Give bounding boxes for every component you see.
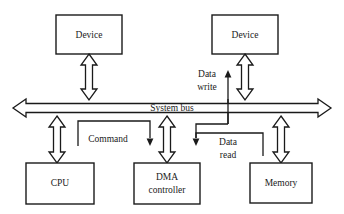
signal-data-write: Data write xyxy=(197,69,231,124)
system-bus-label: System bus xyxy=(150,103,194,113)
data-write-label-line1: Data xyxy=(198,69,217,79)
node-dma-controller: DMA controller xyxy=(134,163,200,204)
node-device-top-right: Device xyxy=(212,15,278,54)
command-arrowhead-icon xyxy=(147,139,154,147)
device-top-right-label: Device xyxy=(232,30,259,40)
system-bus: System bus xyxy=(13,99,331,117)
dma-controller-box xyxy=(134,163,200,204)
data-write-arrowhead-icon xyxy=(225,70,232,78)
command-label: Command xyxy=(88,134,128,144)
dma-controller-label-line2: controller xyxy=(149,185,187,195)
node-cpu: CPU xyxy=(26,163,94,204)
data-read-label-line2: read xyxy=(220,150,237,160)
dma-controller-label-line1: DMA xyxy=(156,172,178,182)
connector-bus-to-dma xyxy=(159,116,175,163)
connector-bus-to-cpu xyxy=(49,116,65,163)
connector-bus-to-memory xyxy=(273,116,289,163)
cpu-label: CPU xyxy=(51,178,70,188)
signal-command: Command xyxy=(78,121,153,146)
data-write-routing-line xyxy=(196,124,228,138)
connector-device-top-right-to-bus xyxy=(237,54,253,100)
memory-label: Memory xyxy=(265,178,298,188)
node-device-top-left: Device xyxy=(56,15,122,54)
device-top-left-label: Device xyxy=(76,30,103,40)
diagram-canvas: Device Device Data write System bus xyxy=(0,0,344,214)
signal-data-read: Data read xyxy=(196,133,263,160)
dma-block-diagram: Device Device Data write System bus xyxy=(0,0,344,214)
connector-device-top-left-to-bus xyxy=(81,54,97,100)
node-memory: Memory xyxy=(250,163,312,203)
data-write-label-line2: write xyxy=(197,82,217,92)
data-read-label-line1: Data xyxy=(219,137,238,147)
data-write-lower-arrowhead-icon xyxy=(193,139,200,147)
